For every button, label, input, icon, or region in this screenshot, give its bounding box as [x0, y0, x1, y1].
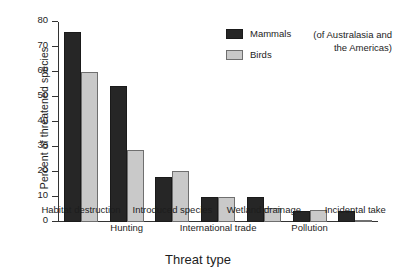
bar-chart-figure: Percent of threatened species 8070605040… — [0, 0, 396, 279]
y-axis-tick: 60 — [52, 71, 58, 72]
y-axis-tick-label: 40 — [37, 114, 48, 125]
y-axis-tick: 80 — [52, 21, 58, 22]
y-axis-tick-label: 80 — [37, 14, 48, 25]
y-axis-tick-label: 20 — [37, 164, 48, 175]
chart-annotation: (of Australasia and the Americas) — [300, 28, 392, 54]
bar-mammals — [155, 177, 172, 222]
legend-label-mammals: Mammals — [250, 28, 291, 39]
bar-birds — [81, 72, 98, 222]
y-axis-tick-label: 60 — [37, 64, 48, 75]
y-axis-line — [58, 22, 59, 222]
legend-swatch-mammals-icon — [226, 29, 243, 39]
bar-group — [155, 22, 189, 222]
bar-group — [110, 22, 144, 222]
y-axis-tick-label: 10 — [37, 189, 48, 200]
annotation-line-1: (of Australasia and — [300, 28, 392, 41]
y-axis-tick: 50 — [52, 96, 58, 97]
x-axis-title: Threat type — [0, 252, 396, 267]
legend-item-mammals: Mammals — [226, 28, 291, 39]
y-axis-tick-label: 30 — [37, 139, 48, 150]
bar-mammals — [64, 32, 81, 222]
annotation-line-2: the Americas) — [300, 41, 392, 54]
legend-label-birds: Birds — [250, 49, 272, 60]
y-axis-tick-label: 50 — [37, 89, 48, 100]
y-axis-tick: 10 — [52, 196, 58, 197]
y-axis-tick: 40 — [52, 121, 58, 122]
y-axis-tick: 20 — [52, 171, 58, 172]
bar-group — [64, 22, 98, 222]
chart-legend: Mammals Birds — [226, 28, 291, 70]
legend-swatch-birds-icon — [226, 50, 243, 60]
y-axis-tick-label: 0 — [43, 214, 48, 225]
x-axis-label: Incidental take — [285, 204, 396, 215]
y-axis-tick: 30 — [52, 146, 58, 147]
bar-mammals — [110, 86, 127, 222]
legend-item-birds: Birds — [226, 49, 291, 60]
y-axis-tick: 70 — [52, 46, 58, 47]
x-axis-label: Pollution — [240, 222, 380, 233]
y-axis-tick-label: 70 — [37, 39, 48, 50]
